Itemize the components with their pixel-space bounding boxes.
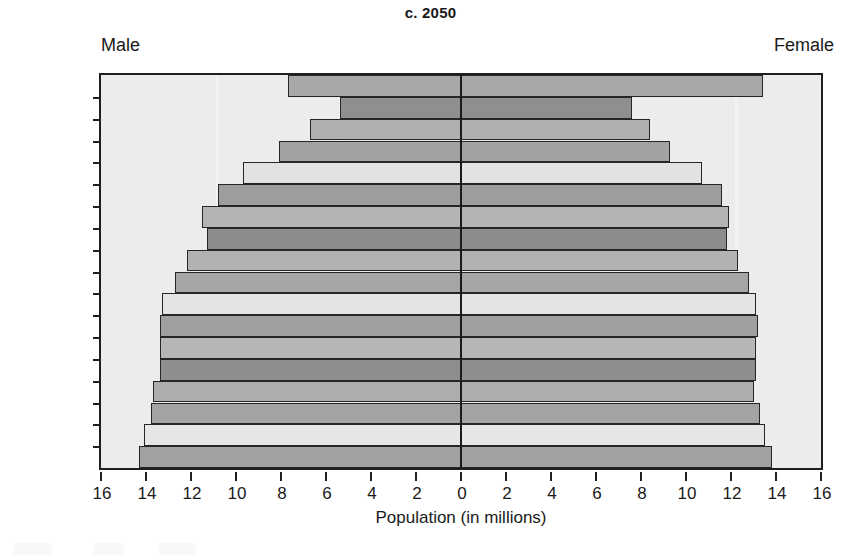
x-axis-tick xyxy=(415,472,417,481)
x-axis-label: 2 xyxy=(397,484,437,504)
y-axis-tick xyxy=(93,184,101,186)
y-axis-tick xyxy=(93,315,101,317)
bar-male-80-84 xyxy=(340,97,462,119)
y-axis-tick xyxy=(93,359,101,361)
y-axis-tick xyxy=(93,228,101,230)
bar-female-0-4 xyxy=(461,446,772,468)
x-axis-label: 14 xyxy=(127,484,167,504)
bar-male-75-79 xyxy=(310,119,461,141)
y-axis-tick xyxy=(93,424,101,426)
bar-male-45-49 xyxy=(187,250,462,272)
x-axis-tick xyxy=(730,472,732,481)
bar-female-55-59 xyxy=(461,206,729,228)
x-axis-label: 16 xyxy=(82,484,122,504)
x-axis-label: 4 xyxy=(532,484,572,504)
x-axis-label: 6 xyxy=(577,484,617,504)
x-axis-label: 8 xyxy=(262,484,302,504)
bar-female-45-49 xyxy=(461,250,738,272)
chart-title: c. 2050 xyxy=(0,4,861,21)
bar-female-30-34 xyxy=(461,315,758,337)
center-axis-line xyxy=(460,75,462,468)
x-axis-label: 10 xyxy=(217,484,257,504)
bar-male-10-14 xyxy=(151,403,462,425)
x-axis-tick xyxy=(595,472,597,481)
x-axis-label: 4 xyxy=(352,484,392,504)
male-side-label: Male xyxy=(101,35,140,56)
x-axis-tick xyxy=(100,472,102,481)
y-axis-tick xyxy=(93,272,101,274)
x-axis-tick xyxy=(325,472,327,481)
bar-female-15-19 xyxy=(461,381,754,403)
x-axis-tick xyxy=(235,472,237,481)
x-axis-tick xyxy=(775,472,777,481)
bar-female-5-9 xyxy=(461,424,765,446)
caption-smudge xyxy=(14,543,314,555)
x-axis-label: 0 xyxy=(442,484,482,504)
bar-male-40-44 xyxy=(175,272,461,294)
x-axis-tick xyxy=(280,472,282,481)
bar-male-85+ xyxy=(288,75,461,97)
y-axis-tick xyxy=(93,403,101,405)
bar-male-15-19 xyxy=(153,381,461,403)
bar-female-70-74 xyxy=(461,141,670,163)
x-axis-tick xyxy=(370,472,372,481)
bar-male-65-69 xyxy=(243,162,461,184)
x-axis-label: 12 xyxy=(172,484,212,504)
plot-area: 85+80–8475–7970–7465–6960–6455–5950–5445… xyxy=(99,73,823,470)
bar-male-70-74 xyxy=(279,141,461,163)
y-axis-tick xyxy=(93,97,101,99)
bar-female-85+ xyxy=(461,75,763,97)
bar-male-50-54 xyxy=(207,228,461,250)
bar-female-50-54 xyxy=(461,228,727,250)
bar-male-35-39 xyxy=(162,293,461,315)
bar-female-65-69 xyxy=(461,162,702,184)
y-axis-tick xyxy=(93,337,101,339)
bar-male-25-29 xyxy=(160,337,462,359)
x-axis-tick xyxy=(460,472,462,481)
bar-male-20-24 xyxy=(160,359,462,381)
bar-female-35-39 xyxy=(461,293,756,315)
x-axis-label: 2 xyxy=(487,484,527,504)
y-axis-tick xyxy=(93,293,101,295)
x-axis-tick xyxy=(820,472,822,481)
bar-female-40-44 xyxy=(461,272,749,294)
bar-female-20-24 xyxy=(461,359,756,381)
bar-female-80-84 xyxy=(461,97,632,119)
bar-female-75-79 xyxy=(461,119,650,141)
x-axis-tick xyxy=(685,472,687,481)
x-axis-tick xyxy=(190,472,192,481)
bar-female-10-14 xyxy=(461,403,760,425)
x-axis-label: 8 xyxy=(622,484,662,504)
bar-male-55-59 xyxy=(202,206,461,228)
bar-female-25-29 xyxy=(461,337,756,359)
x-axis-label: 14 xyxy=(757,484,797,504)
y-axis-tick xyxy=(93,446,101,448)
y-axis-tick xyxy=(93,162,101,164)
x-axis-label: 16 xyxy=(802,484,842,504)
bar-male-0-4 xyxy=(139,446,461,468)
bar-male-60-64 xyxy=(218,184,461,206)
bar-male-30-34 xyxy=(160,315,462,337)
female-side-label: Female xyxy=(774,35,834,56)
y-axis-tick xyxy=(93,141,101,143)
x-axis-title: Population (in millions) xyxy=(99,508,823,528)
population-pyramid-figure: c. 2050 Male Female 85+80–8475–7970–7465… xyxy=(0,0,861,560)
x-axis-label: 6 xyxy=(307,484,347,504)
x-axis-tick xyxy=(640,472,642,481)
y-axis-tick xyxy=(93,206,101,208)
y-axis-tick xyxy=(93,250,101,252)
y-axis-tick xyxy=(93,119,101,121)
y-axis-tick xyxy=(93,381,101,383)
plot-inner xyxy=(101,75,821,468)
x-axis-tick xyxy=(550,472,552,481)
x-axis-label: 10 xyxy=(667,484,707,504)
bar-male-5-9 xyxy=(144,424,461,446)
bar-female-60-64 xyxy=(461,184,722,206)
x-axis-tick xyxy=(505,472,507,481)
x-axis-label: 12 xyxy=(712,484,752,504)
x-axis-tick xyxy=(145,472,147,481)
